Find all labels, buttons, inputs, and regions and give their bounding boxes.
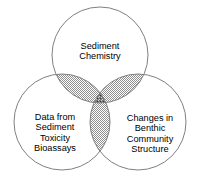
label-sediment-toxicity-bioassays: Data from Sediment Toxicity Bioassays bbox=[13, 112, 97, 154]
venn-diagram-graphic bbox=[0, 0, 203, 194]
label-benthic-community-structure: Changes in Benthic Community Structure bbox=[108, 113, 192, 155]
label-sediment-chemistry: Sediment Chemistry bbox=[56, 41, 144, 62]
venn-diagram: Sediment Chemistry Data from Sediment To… bbox=[0, 0, 203, 194]
